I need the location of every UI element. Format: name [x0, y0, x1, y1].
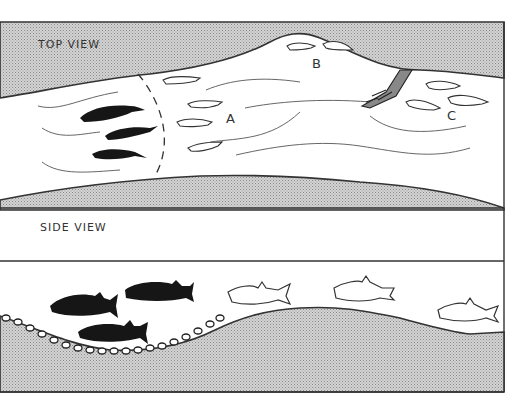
- current-line: [245, 100, 370, 108]
- current-line: [38, 92, 118, 107]
- dark-fish-top: [80, 106, 158, 160]
- dashed-divider: [138, 74, 164, 176]
- current-line: [42, 162, 120, 172]
- zone-b-marker: B: [312, 56, 321, 71]
- current-line: [42, 128, 100, 135]
- dark-fish-side: [50, 280, 194, 344]
- lower-bank: [0, 175, 504, 210]
- zone-a-marker: A: [226, 111, 235, 126]
- current-line: [206, 79, 300, 90]
- current-line: [210, 112, 300, 142]
- current-line: [236, 143, 470, 155]
- salmon-diagram: TOP VIEW A B: [0, 0, 532, 415]
- side-view-panel: [0, 276, 504, 392]
- top-view-label: TOP VIEW: [37, 38, 100, 51]
- fallen-branch: [362, 70, 412, 108]
- fish-group-b: B: [287, 42, 353, 71]
- side-view-label: SIDE VIEW: [40, 221, 107, 234]
- fish-group-c: C: [406, 81, 488, 123]
- zone-c-marker: C: [447, 108, 456, 123]
